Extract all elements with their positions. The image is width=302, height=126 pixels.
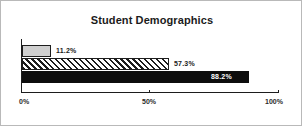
- bar-value-label-2: 57.3%: [174, 60, 195, 67]
- x-axis-label-100: 100%: [265, 98, 283, 105]
- plot-area: 0% 50% 100% 11.2% 57.3% 88.2%: [1, 1, 302, 126]
- x-axis-tick-50: [149, 90, 150, 93]
- chart-frame: Student Demographics 0% 50% 100% 11.2% 5…: [0, 0, 302, 126]
- x-axis-tick-0: [21, 90, 22, 93]
- bar-value-label-1: 11.2%: [56, 47, 76, 54]
- x-axis-label-50: 50%: [142, 98, 156, 105]
- bar-series-2: [22, 58, 169, 70]
- x-axis-line: [21, 92, 279, 93]
- x-axis-label-0: 0%: [19, 98, 29, 105]
- bar-value-label-3: 88.2%: [211, 73, 232, 80]
- bar-series-1: [22, 45, 51, 57]
- x-axis-tick-100: [278, 90, 279, 93]
